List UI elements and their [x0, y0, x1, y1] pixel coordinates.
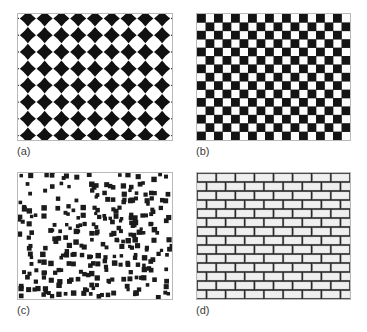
panel-c-random-squares	[17, 172, 173, 300]
panel-b-label: (b)	[196, 145, 209, 157]
panel-a-frame	[17, 13, 173, 141]
panel-b-texture	[197, 14, 350, 140]
panel-d-texture	[197, 173, 350, 299]
panel-a-texture	[18, 14, 172, 140]
panel-c-label: (c)	[17, 304, 30, 316]
panel-d-brick-wall	[196, 172, 351, 300]
panel-b-checkerboard	[196, 13, 351, 141]
figure-sheet: (a) (b) (c) (d)	[0, 0, 367, 332]
panel-a-label: (a)	[17, 145, 30, 157]
panel-c-texture	[18, 173, 172, 299]
panel-d-label: (d)	[196, 304, 209, 316]
panel-d-frame	[196, 172, 351, 300]
panel-a-diamond-grid	[17, 13, 173, 141]
panel-b-frame	[196, 13, 351, 141]
panel-c-frame	[17, 172, 173, 300]
